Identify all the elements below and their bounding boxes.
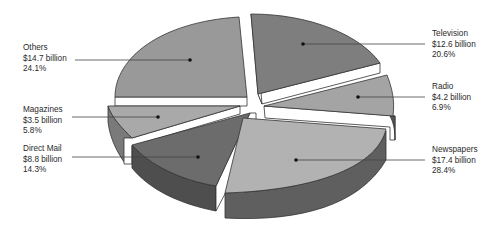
label-direct-mail: Direct Mail $8.8 billion 14.3% xyxy=(23,144,62,176)
label-magazines-name: Magazines xyxy=(23,105,63,116)
label-others-percent: 24.1% xyxy=(23,64,67,75)
label-direct-mail-value: $8.8 billion xyxy=(23,155,62,166)
label-radio-value: $4.2 billion xyxy=(432,93,471,104)
label-newspapers-value: $17.4 billion xyxy=(432,156,478,167)
label-television: Television $12.6 billion 20.6% xyxy=(432,29,476,61)
label-newspapers-name: Newspapers xyxy=(432,145,478,156)
label-magazines-value: $3.5 billion xyxy=(23,116,63,127)
label-television-name: Television xyxy=(432,29,476,40)
label-newspapers-percent: 28.4% xyxy=(432,166,478,177)
label-magazines-percent: 5.8% xyxy=(23,126,63,137)
label-radio-percent: 6.9% xyxy=(432,103,471,114)
slice-others xyxy=(115,17,247,106)
label-others: Others $14.7 billion 24.1% xyxy=(23,43,67,75)
exploded-3d-pie-chart xyxy=(0,0,500,227)
label-magazines: Magazines $3.5 billion 5.8% xyxy=(23,105,63,137)
slice-newspapers xyxy=(225,118,386,219)
label-direct-mail-percent: 14.3% xyxy=(23,165,62,176)
label-radio: Radio $4.2 billion 6.9% xyxy=(432,82,471,114)
label-direct-mail-name: Direct Mail xyxy=(23,144,62,155)
label-television-percent: 20.6% xyxy=(432,50,476,61)
label-others-value: $14.7 billion xyxy=(23,54,67,65)
label-newspapers: Newspapers $17.4 billion 28.4% xyxy=(432,145,478,177)
label-others-name: Others xyxy=(23,43,67,54)
label-television-value: $12.6 billion xyxy=(432,40,476,51)
label-radio-name: Radio xyxy=(432,82,471,93)
